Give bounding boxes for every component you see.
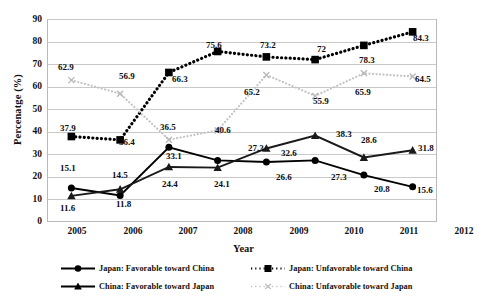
- gridline-80: [48, 42, 436, 43]
- x-tick-2008: 2008: [213, 226, 273, 236]
- label-ju-2008: 75.6: [206, 40, 222, 50]
- legend-key-dotted-x-icon: [250, 281, 286, 292]
- gridline-20: [48, 177, 436, 178]
- gridline-60: [48, 87, 436, 88]
- label-jf-2005: 15.1: [60, 163, 76, 173]
- label-cf-2008: 24.1: [214, 179, 230, 189]
- y-tick-40: 40: [20, 126, 42, 136]
- legend-label-japan-favorable: Japan: Favorable toward China: [99, 264, 214, 273]
- label-ju-2006: 36.4: [119, 137, 135, 147]
- label-cf-2009: 32.6: [281, 148, 297, 158]
- label-jf-2009: 26.6: [276, 172, 292, 182]
- label-jf-2007: 33.1: [166, 151, 182, 161]
- label-cu-2005: 62.9: [58, 62, 74, 72]
- gridline-70: [48, 64, 436, 65]
- y-tick-90: 90: [20, 14, 42, 24]
- x-tick-2011: 2011: [379, 226, 439, 236]
- y-tick-10: 10: [20, 194, 42, 204]
- label-cu-2008: 40.6: [215, 125, 231, 135]
- label-cu-2006: 56.9: [119, 71, 135, 81]
- gridline-40: [48, 132, 436, 133]
- label-cu-2012: 64.5: [415, 74, 431, 84]
- y-tick-30: 30: [20, 149, 42, 159]
- gridline-50: [48, 109, 436, 110]
- x-tick-2009: 2009: [269, 226, 329, 236]
- x-tick-2006: 2006: [103, 226, 163, 236]
- label-cu-2007: 36.5: [160, 122, 176, 132]
- x-tick-2007: 2007: [158, 226, 218, 236]
- x-axis-title: Year: [47, 243, 440, 254]
- legend-item-japan-favorable[interactable]: Japan: Favorable toward China: [60, 263, 214, 274]
- legend-key-solid-circle-icon: [60, 263, 96, 274]
- y-tick-20: 20: [20, 171, 42, 181]
- legend-key-solid-triangle-icon: [60, 281, 96, 292]
- label-cu-2009: 65.2: [244, 87, 260, 97]
- label-jf-2008: 27.3: [248, 143, 264, 153]
- label-ju-2009: 73.2: [260, 40, 276, 50]
- y-tick-50: 50: [20, 104, 42, 114]
- legend-item-japan-unfavorable[interactable]: Japan: Unfavorable toward China: [250, 263, 412, 274]
- legend-label-japan-unfavorable: Japan: Unfavorable toward China: [289, 264, 412, 273]
- gridline-30: [48, 154, 436, 155]
- label-cf-2010: 38.3: [336, 129, 352, 139]
- label-jf-2011: 20.8: [374, 184, 390, 194]
- legend-item-china-unfavorable[interactable]: China: Unfavorable toward Japan: [250, 281, 412, 292]
- label-ju-2011: 78.3: [359, 55, 375, 65]
- legend: Japan: Favorable toward China China: Fav…: [60, 262, 440, 302]
- y-tick-80: 80: [20, 36, 42, 46]
- legend-key-dotted-square-icon: [250, 263, 286, 274]
- label-cf-2006: 14.5: [112, 170, 128, 180]
- label-cf-2011: 28.6: [361, 135, 377, 145]
- label-jf-2010: 27.3: [331, 172, 347, 182]
- label-cf-2007: 24.4: [162, 179, 178, 189]
- label-cu-2011: 65.9: [355, 87, 371, 97]
- label-ju-2007: 66.3: [172, 74, 188, 84]
- legend-label-china-unfavorable: China: Unfavorable toward Japan: [289, 282, 412, 291]
- x-tick-2010: 2010: [324, 226, 384, 236]
- label-ju-2012: 84.3: [413, 33, 429, 43]
- legend-label-china-favorable: China: Favorable toward Japan: [99, 282, 214, 291]
- label-ju-2005: 37.9: [60, 123, 76, 133]
- gridline-90: [48, 19, 436, 20]
- x-tick-2012: 2012: [434, 226, 478, 236]
- legend-item-china-favorable[interactable]: China: Favorable toward Japan: [60, 281, 214, 292]
- label-cf-2012: 31.8: [418, 143, 434, 153]
- y-tick-0: 0: [20, 216, 42, 226]
- gridline-10: [48, 199, 436, 200]
- label-jf-2012: 15.6: [417, 185, 433, 195]
- label-cf-2005: 11.6: [60, 203, 75, 213]
- label-cu-2010: 55.9: [313, 96, 329, 106]
- y-tick-70: 70: [20, 59, 42, 69]
- x-tick-2005: 2005: [47, 226, 107, 236]
- label-jf-2006: 11.8: [116, 199, 131, 209]
- y-tick-60: 60: [20, 81, 42, 91]
- label-ju-2010: 72: [317, 44, 326, 54]
